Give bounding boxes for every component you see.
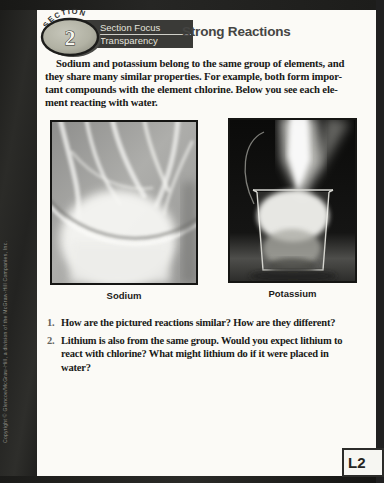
question-2-text: Lithium is also from the same group. Wou… — [61, 334, 342, 375]
section-number: 2 — [65, 26, 76, 50]
question-1-text: How are the pictured reactions similar? … — [61, 316, 335, 330]
binder-left-band: Copyright © Glencoe/McGraw-Hill, a divis… — [0, 0, 37, 483]
figure-sodium: Sodium — [50, 120, 198, 301]
intro-line: they share many similar properties. For … — [45, 70, 373, 83]
binder-bottom-band — [0, 476, 376, 483]
section-badge-icon: SECTION 2 — [38, 6, 104, 60]
potassium-photo — [228, 118, 357, 283]
caption-potassium: Potassium — [228, 288, 357, 299]
label-line-2: Transparency — [98, 35, 193, 47]
question-2-number: 2. — [47, 334, 61, 375]
level-badge: L2 — [342, 448, 384, 477]
intro-line: ment reacting with water. — [45, 96, 373, 109]
sodium-photo — [50, 120, 198, 285]
intro-paragraph: Sodium and potassium belong to the same … — [45, 57, 373, 109]
caption-sodium: Sodium — [50, 290, 198, 301]
page-title: Strong Reactions — [182, 24, 291, 39]
copyright-text: Copyright © Glencoe/McGraw-Hill, a divis… — [2, 241, 8, 443]
section-badge: SECTION 2 — [38, 6, 104, 60]
question-1-number: 1. — [47, 316, 61, 330]
label-line-1: Section Focus — [98, 22, 193, 34]
figure-potassium: Potassium — [228, 118, 357, 299]
question-list: 1. How are the pictured reactions simila… — [47, 316, 373, 378]
question-1: 1. How are the pictured reactions simila… — [47, 316, 373, 330]
question-2: 2. Lithium is also from the same group. … — [47, 334, 373, 375]
intro-line: tant compounds with the element chlorine… — [45, 83, 373, 96]
page: SECTION 2 Section Focus Transparency Str… — [37, 10, 376, 476]
